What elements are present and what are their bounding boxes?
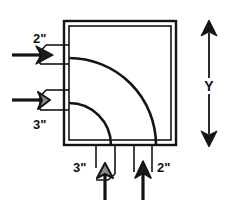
outlet-right-2in: 2" <box>134 145 170 200</box>
outlet-left-size-label: 3" <box>73 160 86 175</box>
inlet-top-size-label: 2" <box>33 31 46 46</box>
outlet-right-size-label: 2" <box>157 160 170 175</box>
inlet-top-2in: 2" <box>12 31 69 64</box>
outlet-left-3in: 3" <box>73 145 115 200</box>
inlet-bottom-size-label: 3" <box>33 117 46 132</box>
tank-body <box>64 21 176 145</box>
dimension-y: Y <box>201 20 217 147</box>
diagram-canvas: 2" 3" 3" 2" <box>0 0 229 203</box>
inlet-bottom-3in: 3" <box>12 90 69 132</box>
dimension-y-label: Y <box>204 78 214 94</box>
piping-schematic: 2" 3" 3" 2" <box>0 0 229 203</box>
tank-inner-wall <box>69 26 171 140</box>
